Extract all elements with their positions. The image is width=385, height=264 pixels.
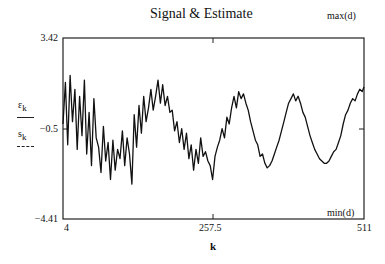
plot-area	[0, 0, 385, 264]
signal-line	[63, 75, 364, 184]
plot-frame	[63, 38, 364, 219]
